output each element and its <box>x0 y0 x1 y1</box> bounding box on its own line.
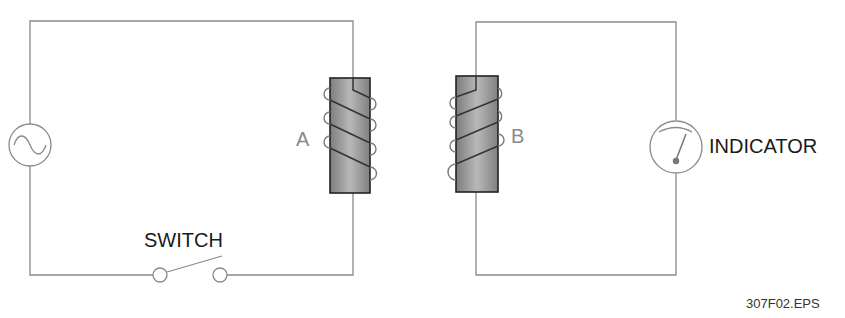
secondary-circuit <box>448 22 702 275</box>
primary-wire-bottom-left <box>30 166 153 275</box>
primary-wire-bottom-right <box>227 193 353 275</box>
coil-a-label: A <box>296 128 309 151</box>
indicator-meter-icon <box>650 121 702 173</box>
figure-id: 307F02.EPS <box>746 296 820 311</box>
coil-b-icon <box>448 76 504 192</box>
switch-label: SWITCH <box>144 229 223 252</box>
circuit-diagram <box>0 0 845 318</box>
coil-b-label: B <box>511 125 524 148</box>
secondary-wire-bottom <box>476 174 676 275</box>
secondary-wire <box>476 22 676 120</box>
primary-wire <box>30 21 353 124</box>
indicator-label: INDICATOR <box>709 135 817 158</box>
switch-icon <box>153 256 227 282</box>
ac-source-icon <box>9 124 51 166</box>
coil-a-icon <box>324 78 377 193</box>
